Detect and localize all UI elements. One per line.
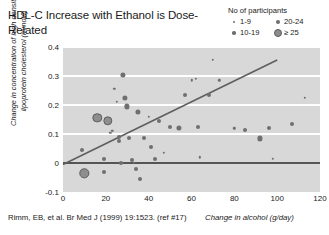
scatter-point [142,136,146,140]
y-tick-label: 0.1 [19,130,59,139]
legend-item-1-9: 1-9 [228,17,272,27]
x-axis-label: Change in alcohol (g/day) [205,213,294,222]
scatter-point [290,122,294,126]
scatter-point [157,119,161,123]
y-tick-label: 0.3 [19,72,59,81]
legend: No of participants 1-9 20-24 10-19 ≥ 25 [228,6,326,38]
scatter-point [102,170,106,174]
citation-text: Rimm, EB, et al. Br Med J (1999) 19:1523… [8,213,187,222]
scatter-point [117,139,121,143]
legend-item-label: 1-9 [240,17,251,27]
scatter-point [207,93,211,97]
y-tick-label: 0.2 [19,101,59,110]
scatter-point [80,148,84,152]
page-title: HDL-C Increase with Ethanol is Dose-Rela… [8,8,208,38]
scatter-point [138,177,142,181]
x-tick-label: 60 [187,194,196,203]
scatter-point [134,167,138,171]
scatter-point [168,125,172,129]
chart-figure: HDL-C Increase with Ethanol is Dose-Rela… [0,0,329,235]
legend-marker-icon [228,28,240,38]
x-tick-label: 20 [101,194,110,203]
scatter-point [119,161,123,165]
y-tick-label: 0 [19,159,59,168]
legend-item-20-24: 20-24 [272,17,324,27]
legend-marker-icon [272,17,284,27]
scatter-point [196,125,200,129]
x-tick-label: 100 [270,194,283,203]
scatter-point [183,93,187,97]
scatter-point [243,128,247,132]
legend-item-gte-25: ≥ 25 [272,28,324,38]
legend-item-label: ≥ 25 [284,28,299,38]
plot-area [63,47,320,192]
legend-marker-icon [272,28,284,38]
legend-title: No of participants [228,6,326,16]
legend-item-10-19: 10-19 [228,28,272,38]
legend-marker-icon [228,17,240,27]
x-tick-label: 80 [230,194,239,203]
y-axis-label: Change in concentration of high density … [9,0,35,135]
scatter-point [153,157,157,161]
legend-item-label: 10-19 [240,28,259,38]
x-tick-label: 120 [313,194,326,203]
scatter-point [102,157,106,161]
scatter-point [127,136,131,140]
x-tick-label: 40 [144,194,153,203]
y-tick-label: -0.1 [19,188,59,197]
scatter-point [267,126,271,130]
x-tick-label: 0 [61,194,65,203]
scatter-point [149,145,153,149]
y-tick-label: 0.4 [19,43,59,52]
legend-items: 1-9 20-24 10-19 ≥ 25 [228,17,326,38]
legend-item-label: 20-24 [284,17,303,27]
